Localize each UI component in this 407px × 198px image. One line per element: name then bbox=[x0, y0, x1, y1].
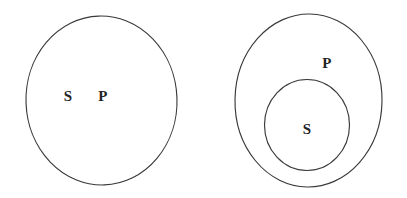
right-label-p: P bbox=[322, 55, 331, 71]
left-label-p: P bbox=[98, 88, 107, 104]
euler-diagram-svg: S P P S bbox=[0, 0, 407, 198]
panel-subset-relation: P S bbox=[234, 13, 384, 189]
diagram-canvas: S P P S bbox=[0, 0, 407, 198]
right-label-s: S bbox=[303, 121, 312, 137]
left-label-s: S bbox=[64, 88, 73, 104]
panel-coextensive-sets: S P bbox=[23, 13, 180, 187]
